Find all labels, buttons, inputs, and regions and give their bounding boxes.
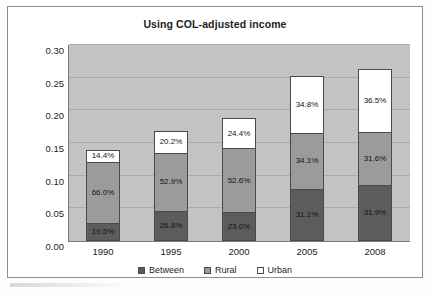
- legend-swatch-icon: [138, 267, 145, 274]
- bar-segment-between[interactable]: 23.0%: [222, 212, 256, 241]
- bar-segment-between[interactable]: 31.1%: [290, 189, 324, 241]
- legend-item-rural[interactable]: Rural: [204, 265, 237, 275]
- bar-segment-label: 34.1%: [296, 157, 319, 165]
- bar-segment-label: 23.0%: [228, 223, 251, 231]
- legend-swatch-icon: [204, 267, 211, 274]
- bar-segment-label: 52.6%: [228, 177, 251, 185]
- bar-segment-label: 66.0%: [92, 189, 115, 197]
- bar-segment-label: 31.9%: [364, 209, 387, 217]
- scanned-page: Using COL-adjusted income 0.000.050.100.…: [0, 0, 432, 294]
- bar-group[interactable]: 34.8%34.1%31.1%: [273, 45, 341, 241]
- bar-segment-urban[interactable]: 24.4%: [222, 118, 256, 149]
- legend-label: Between: [149, 265, 184, 275]
- bar-segment-rural[interactable]: 52.6%: [222, 148, 256, 213]
- bar-segment-between[interactable]: 26.8%: [154, 211, 188, 241]
- bar-segment-label: 31.6%: [364, 155, 387, 163]
- bar-segment-rural[interactable]: 52.9%: [154, 153, 188, 212]
- stacked-bar[interactable]: 34.8%34.1%31.1%: [290, 77, 324, 241]
- bar-segment-label: 31.1%: [296, 211, 319, 219]
- bar-segment-urban[interactable]: 14.4%: [86, 150, 120, 164]
- y-axis: 0.000.050.100.150.200.250.30: [14, 45, 64, 241]
- bar-segment-rural[interactable]: 66.0%: [86, 162, 120, 223]
- scan-artifact: [10, 283, 130, 287]
- bar-segment-label: 26.8%: [160, 222, 183, 230]
- chart-figure-card: Using COL-adjusted income 0.000.050.100.…: [7, 6, 423, 278]
- bar-segment-urban[interactable]: 34.8%: [290, 76, 324, 134]
- legend-item-urban[interactable]: Urban: [257, 265, 293, 275]
- stacked-bar[interactable]: 20.2%52.9%26.8%: [154, 132, 188, 241]
- legend-swatch-icon: [257, 267, 264, 274]
- x-axis-tick-label: 1990: [92, 246, 113, 257]
- chart-title: Using COL-adjusted income: [8, 18, 422, 30]
- x-axis-tick-label: 2005: [296, 246, 317, 257]
- x-axis-tick-label: 2000: [228, 246, 249, 257]
- bar-segment-rural[interactable]: 34.1%: [290, 133, 324, 190]
- bar-segment-label: 19.5%: [92, 228, 115, 236]
- chart-legend: BetweenRuralUrban: [8, 265, 422, 275]
- x-axis-tick-label: 1995: [160, 246, 181, 257]
- bar-segment-label: 52.9%: [160, 178, 183, 186]
- legend-label: Urban: [268, 265, 293, 275]
- bar-group[interactable]: 36.5%31.6%31.9%: [341, 45, 409, 241]
- bar-group[interactable]: 24.4%52.6%23.0%: [205, 45, 273, 241]
- bar-segment-label: 34.8%: [296, 101, 319, 109]
- bar-segment-between[interactable]: 31.9%: [358, 185, 392, 241]
- stacked-bar[interactable]: 24.4%52.6%23.0%: [222, 119, 256, 241]
- bar-segment-label: 14.4%: [92, 152, 115, 160]
- bar-group[interactable]: 14.4%66.0%19.5%: [69, 45, 137, 241]
- bar-group[interactable]: 20.2%52.9%26.8%: [137, 45, 205, 241]
- x-axis-tick-label: 2008: [364, 246, 385, 257]
- stacked-bar[interactable]: 36.5%31.6%31.9%: [358, 70, 392, 241]
- bar-segment-label: 20.2%: [160, 138, 183, 146]
- legend-label: Rural: [215, 265, 237, 275]
- bar-segment-rural[interactable]: 31.6%: [358, 132, 392, 187]
- bar-segment-label: 36.5%: [364, 97, 387, 105]
- bar-segment-between[interactable]: 19.5%: [86, 223, 120, 241]
- bars-layer: 14.4%66.0%19.5%20.2%52.9%26.8%24.4%52.6%…: [69, 45, 409, 241]
- x-axis: 19901995200020052008: [69, 246, 409, 262]
- stacked-bar[interactable]: 14.4%66.0%19.5%: [86, 151, 120, 241]
- legend-item-between[interactable]: Between: [138, 265, 184, 275]
- bar-segment-urban[interactable]: 20.2%: [154, 131, 188, 154]
- bar-segment-label: 24.4%: [228, 130, 251, 138]
- bar-segment-urban[interactable]: 36.5%: [358, 69, 392, 132]
